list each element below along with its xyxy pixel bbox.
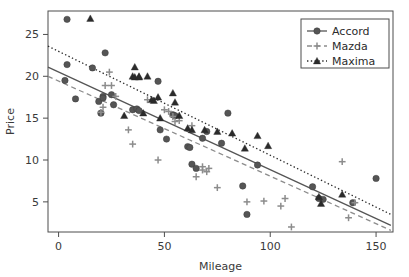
point-accord [193,165,199,171]
point-mazda [345,214,352,221]
point-maxima [169,89,176,95]
scatter-plot: 050100150510152025MileagePrice AccordMaz… [0,0,409,277]
point-maxima [214,128,221,134]
point-mazda [260,198,267,205]
y-tick-label: 20 [25,70,39,83]
legend-label-maxima: Maxima [332,55,375,68]
y-axis-title: Price [4,108,17,135]
point-accord [157,127,163,133]
point-accord [225,110,231,116]
point-accord [155,78,161,84]
point-mazda [125,126,132,133]
point-accord [240,183,246,189]
point-accord [102,50,108,56]
x-axis-title: Mileage [199,260,242,273]
point-mazda [339,158,346,165]
point-mazda [102,82,109,89]
point-mazda [214,184,221,191]
point-maxima [87,15,94,21]
point-accord [72,96,78,102]
point-accord [64,61,70,67]
fit-line-maxima [48,46,391,214]
point-mazda [108,82,115,89]
point-accord [62,77,68,83]
x-tick-label: 100 [260,240,281,253]
x-tick-label: 50 [157,240,171,253]
point-accord [100,95,106,101]
x-tick-label: 0 [55,240,62,253]
point-accord [110,102,116,108]
y-tick-label: 10 [25,154,39,167]
point-mazda [193,173,200,180]
legend-label-mazda: Mazda [332,40,368,53]
point-maxima [171,99,178,105]
point-maxima [144,73,151,79]
point-maxima [339,191,346,197]
chart-legend: AccordMazdaMaxima [301,19,389,68]
point-accord [373,175,379,181]
point-mazda [288,224,295,231]
legend-marker-accord [314,28,320,34]
point-accord [163,136,169,142]
point-maxima [154,94,161,100]
point-mazda [277,203,284,210]
point-maxima [121,112,128,118]
y-tick-label: 25 [25,28,39,41]
point-accord [218,140,224,146]
point-accord [309,184,315,190]
point-accord [187,144,193,150]
point-maxima [131,63,138,69]
point-maxima [229,130,236,136]
x-tick-label: 150 [366,240,387,253]
point-accord [89,65,95,71]
point-maxima [241,145,248,151]
point-mazda [129,141,136,148]
y-tick-label: 15 [25,112,39,125]
point-maxima [265,142,272,148]
point-mazda [282,195,289,202]
fit-line-accord [48,67,391,225]
point-accord [64,16,70,22]
legend-label-accord: Accord [332,25,369,38]
point-accord [244,211,250,217]
point-maxima [254,132,261,138]
point-accord [199,135,205,141]
point-accord [254,162,260,168]
point-mazda [244,198,251,205]
point-mazda [155,157,162,164]
chart-page: 050100150510152025MileagePrice AccordMaz… [0,0,409,277]
regression-lines-layer [48,46,391,230]
y-tick-label: 5 [32,196,39,209]
